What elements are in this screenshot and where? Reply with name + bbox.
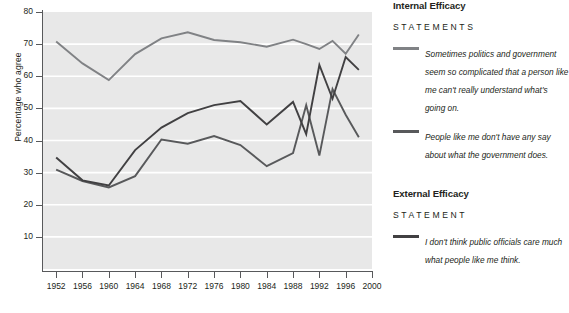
y-tick	[36, 12, 43, 13]
legend-subheading-internal: STATEMENTS	[393, 22, 569, 32]
y-tick	[36, 237, 43, 238]
legend-subheading-external: STATEMENT	[393, 210, 569, 220]
x-axis-line	[42, 271, 373, 272]
y-tick-label: 50	[0, 102, 33, 112]
legend-item-label: People like me don't have any say about …	[425, 132, 551, 160]
x-tick	[82, 272, 83, 278]
legend-item[interactable]: People like me don't have any say about …	[393, 126, 569, 162]
legend-item[interactable]: I don't think public officials care much…	[393, 231, 569, 267]
x-tick	[214, 272, 215, 278]
y-tick	[36, 173, 43, 174]
legend-item-label: I don't think public officials care much…	[425, 237, 562, 265]
y-tick-label: 70	[0, 38, 33, 48]
data-line	[56, 32, 359, 80]
legend-heading-internal: Internal Efficacy	[393, 0, 569, 11]
y-tick-label: 60	[0, 70, 33, 80]
x-tick	[372, 272, 373, 278]
legend-item[interactable]: Sometimes politics and government seem s…	[393, 43, 569, 115]
x-tick	[135, 272, 136, 278]
x-tick	[56, 272, 57, 278]
chart-container: Percentage who agree 1020304050607080 19…	[0, 0, 390, 313]
y-tick	[36, 141, 43, 142]
y-tick-label: 40	[0, 135, 33, 145]
y-tick-label: 10	[0, 231, 33, 241]
legend-heading-external: External Efficacy	[393, 188, 569, 199]
y-tick	[36, 108, 43, 109]
x-tick	[319, 272, 320, 278]
y-tick	[36, 205, 43, 206]
x-tick	[267, 272, 268, 278]
x-tick	[240, 272, 241, 278]
x-tick-label: 2000	[355, 281, 389, 291]
legend-line-swatch-icon	[393, 47, 419, 50]
plot-svg	[43, 12, 372, 269]
chart-legend: Internal Efficacy STATEMENTS Sometimes p…	[393, 0, 569, 313]
y-tick-label: 80	[0, 6, 33, 16]
legend-line-swatch-icon	[393, 235, 419, 238]
x-tick	[109, 272, 110, 278]
y-tick-label: 20	[0, 199, 33, 209]
y-tick	[36, 76, 43, 77]
x-tick	[188, 272, 189, 278]
y-tick-label: 30	[0, 167, 33, 177]
x-tick	[293, 272, 294, 278]
x-tick	[346, 272, 347, 278]
plot-area	[43, 12, 372, 269]
x-tick	[161, 272, 162, 278]
chart-page: Percentage who agree 1020304050607080 19…	[0, 0, 569, 313]
legend-line-swatch-icon	[393, 130, 419, 133]
y-tick	[36, 44, 43, 45]
legend-item-label: Sometimes politics and government seem s…	[425, 49, 568, 113]
